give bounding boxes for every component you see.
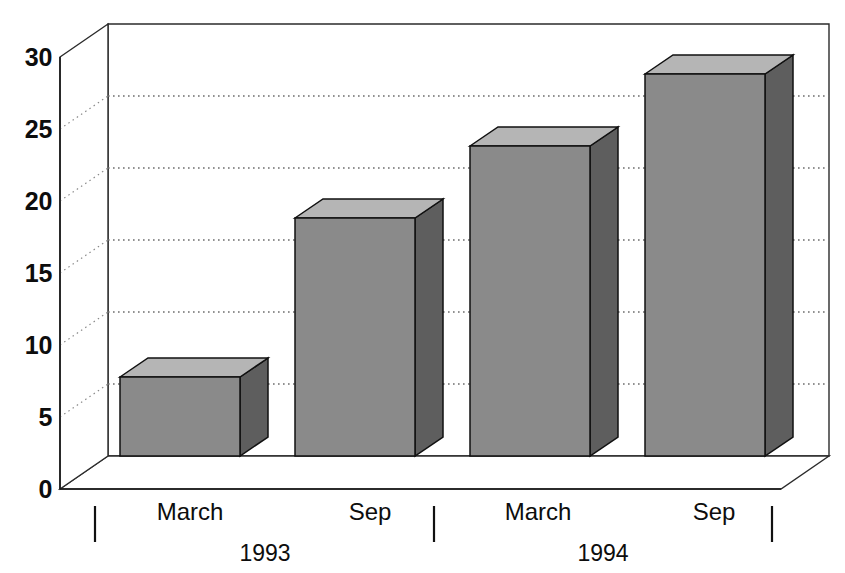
x-tick-label-march-1993: March: [120, 500, 260, 524]
y-tick-label-25: 25: [6, 117, 52, 142]
y-tick-label-0: 0: [6, 477, 52, 502]
x-group-label-1994: 1994: [533, 542, 673, 565]
chart-canvas: [0, 0, 845, 573]
y-tick-label-5: 5: [6, 405, 52, 430]
y-tick-label-30: 30: [6, 45, 52, 70]
y-tick-label-15: 15: [6, 261, 52, 286]
bar-sep-1993[interactable]: [295, 199, 443, 456]
x-tick-label-sep-1993: Sep: [300, 500, 440, 524]
bar-march-1994[interactable]: [470, 127, 618, 456]
bar-sep-1994[interactable]: [645, 55, 793, 456]
plot-floor: [60, 456, 829, 489]
bar-chart-figure: 30 25 20 15 10 5 0 March Sep March Sep 1…: [0, 0, 845, 573]
plot-left-wall: [60, 24, 108, 489]
x-group-label-1993: 1993: [195, 542, 335, 565]
bar-march-1993[interactable]: [120, 358, 268, 456]
x-tick-label-march-1994: March: [468, 500, 608, 524]
y-tick-label-20: 20: [6, 189, 52, 214]
y-tick-label-10: 10: [6, 333, 52, 358]
x-tick-label-sep-1994: Sep: [644, 500, 784, 524]
